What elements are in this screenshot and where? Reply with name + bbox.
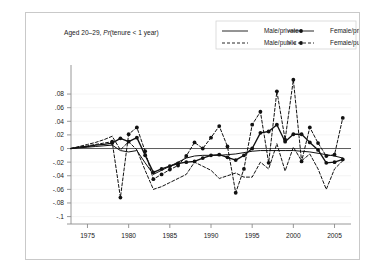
data-point-female-public xyxy=(341,116,345,120)
data-point-female-public xyxy=(119,196,123,200)
series-line-female-public xyxy=(71,80,343,198)
data-point-female-public xyxy=(275,89,279,93)
data-point-female-public xyxy=(283,138,287,142)
data-point-female-public xyxy=(226,145,230,149)
data-point-female-private xyxy=(324,161,328,165)
legend-label-female-public: Female/public xyxy=(330,39,359,47)
x-tick-label: 1975 xyxy=(80,232,95,239)
y-tick-label: .02 xyxy=(55,131,64,138)
x-tick-label: 1990 xyxy=(204,232,219,239)
data-point-female-public xyxy=(291,78,295,82)
data-point-female-public xyxy=(110,140,114,144)
data-point-female-private xyxy=(275,123,279,127)
data-point-female-public xyxy=(333,153,337,157)
data-point-female-public xyxy=(217,124,221,128)
data-point-female-private xyxy=(119,136,123,140)
data-point-female-public xyxy=(143,149,147,153)
y-tick-label: -.04 xyxy=(53,172,65,179)
y-tick-label: -.1 xyxy=(56,213,64,220)
data-point-female-public xyxy=(201,147,205,151)
chart-title: Aged 20–29, Pr(tenure < 1 year) xyxy=(64,29,159,37)
data-point-female-public xyxy=(176,164,180,168)
data-point-female-private xyxy=(209,153,213,157)
data-point-female-private xyxy=(250,147,254,151)
y-tick-label: .06 xyxy=(55,104,64,111)
data-point-female-public xyxy=(209,136,213,140)
x-tick-label: 2000 xyxy=(286,232,301,239)
x-tick-label: 1980 xyxy=(121,232,136,239)
data-point-female-public xyxy=(151,177,155,181)
data-point-female-public xyxy=(267,161,271,165)
data-point-female-private xyxy=(135,136,139,140)
data-point-female-public xyxy=(127,132,131,136)
data-point-female-public xyxy=(308,126,312,130)
data-point-female-public xyxy=(242,167,246,171)
y-tick-label: -.06 xyxy=(53,186,65,193)
legend-marker xyxy=(299,29,303,33)
y-tick-label: -.08 xyxy=(53,199,65,206)
figure-container: Aged 20–29, Pr(tenure < 1 year)Male/priv… xyxy=(0,0,385,276)
y-tick-label: 0 xyxy=(60,145,64,152)
legend-label-female-private: Female/private xyxy=(330,27,359,35)
data-point-female-private xyxy=(168,164,172,168)
data-point-female-public xyxy=(300,160,304,164)
data-point-female-private xyxy=(201,156,205,160)
data-point-female-public xyxy=(160,172,164,176)
data-point-female-public xyxy=(250,123,254,127)
figure-frame: Aged 20–29, Pr(tenure < 1 year)Male/priv… xyxy=(25,12,360,260)
data-point-female-private xyxy=(217,153,221,157)
data-point-female-public xyxy=(168,168,172,172)
data-point-female-private xyxy=(333,160,337,164)
data-point-female-private xyxy=(316,148,320,152)
data-point-female-private xyxy=(160,167,164,171)
data-point-female-private xyxy=(234,158,238,162)
data-point-female-private xyxy=(259,131,263,135)
data-point-female-private xyxy=(267,130,271,134)
x-tick-label: 1985 xyxy=(162,232,177,239)
data-point-female-public xyxy=(135,126,139,130)
x-tick-label: 2005 xyxy=(327,232,342,239)
data-point-female-public xyxy=(316,141,320,145)
data-point-female-private xyxy=(291,132,295,136)
y-tick-label: -.02 xyxy=(53,159,65,166)
data-point-female-private xyxy=(242,153,246,157)
x-tick-label: 1995 xyxy=(245,232,260,239)
data-point-female-public xyxy=(234,191,238,195)
legend-marker xyxy=(299,41,303,45)
data-point-female-private xyxy=(184,160,188,164)
y-tick-label: .08 xyxy=(55,90,64,97)
data-point-female-public xyxy=(259,110,263,114)
legend-label-male-public: Male/public xyxy=(264,39,297,47)
line-chart: Aged 20–29, Pr(tenure < 1 year)Male/priv… xyxy=(26,13,359,259)
data-point-female-private xyxy=(300,132,304,136)
data-point-female-private xyxy=(226,155,230,159)
data-point-female-private xyxy=(308,140,312,144)
y-tick-label: .04 xyxy=(55,118,64,125)
data-point-female-public xyxy=(184,154,188,158)
data-point-female-public xyxy=(193,140,197,144)
data-point-female-public xyxy=(324,154,328,158)
